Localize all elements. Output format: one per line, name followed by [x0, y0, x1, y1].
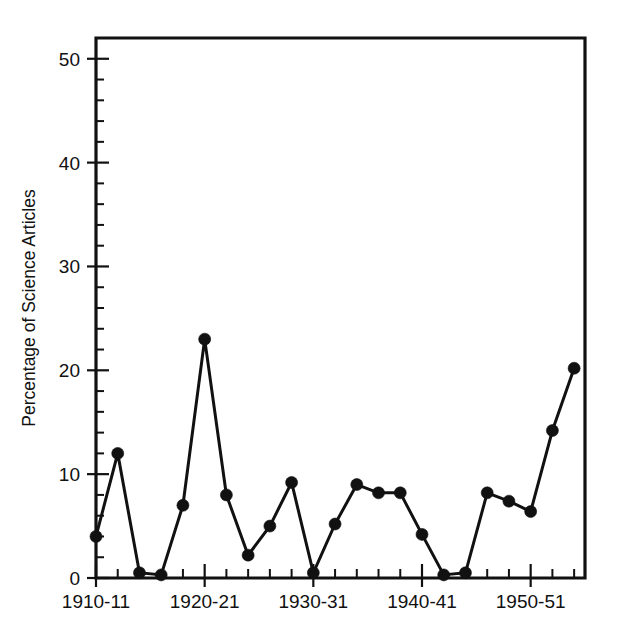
y-axis-title-text: Percentage of Science Articles — [19, 189, 39, 427]
data-point: 1920-21: 23% — [199, 333, 211, 345]
y-tick-label: 40 — [59, 153, 80, 174]
data-point: 1940-41: 4.2% — [416, 528, 428, 540]
data-point: 1948-49: 7.4% — [503, 495, 515, 507]
y-tick-label: 0 — [69, 568, 80, 589]
data-point: 1954-55: 20.2% — [568, 362, 580, 374]
y-axis-title: Percentage of Science Articles — [19, 189, 39, 427]
data-point: 1932-33: 5.2% — [329, 518, 341, 530]
y-tick-label: 30 — [59, 256, 80, 277]
data-point: 1926-27: 5% — [264, 520, 276, 532]
data-point: 1934-35: 9% — [351, 479, 363, 491]
data-point: 1916-17: 0.3% — [155, 569, 167, 581]
data-point: 1930-31: 0.5% — [307, 567, 319, 579]
data-point: 1928-29: 9.2% — [286, 476, 298, 488]
data-point: 1950-51: 6.4% — [525, 506, 537, 518]
y-tick-label: 20 — [59, 360, 80, 381]
data-point: 1922-23: 8% — [220, 489, 232, 501]
line-chart: 01020304050 1910-111920-211930-311940-41… — [0, 0, 622, 640]
x-tick-label: 1950-51 — [496, 591, 566, 612]
data-point: 1946-47: 8.2% — [481, 487, 493, 499]
x-tick-label: 1920-21 — [170, 591, 240, 612]
data-point: 1942-43: 0.3% — [438, 569, 450, 581]
data-point: 1938-39: 8.2% — [394, 487, 406, 499]
x-tick-label: 1930-31 — [278, 591, 348, 612]
x-axis-tick-labels: 1910-111920-211930-311940-411950-51 — [62, 591, 566, 612]
data-point: 1936-37: 8.2% — [373, 487, 385, 499]
x-tick-label: 1940-41 — [387, 591, 457, 612]
data-point: 1912-13: 12% — [112, 447, 124, 459]
chart-figure: 01020304050 1910-111920-211930-311940-41… — [0, 0, 622, 640]
data-point-markers: 1910-11: 4%1912-13: 12%1914-15: 0.5%1916… — [90, 333, 580, 581]
y-axis-tick-labels: 01020304050 — [59, 49, 80, 589]
x-axis-ticks — [96, 564, 574, 587]
y-tick-label: 10 — [59, 464, 80, 485]
data-point: 1918-19: 7% — [177, 499, 189, 511]
data-point: 1924-25: 2.2% — [242, 549, 254, 561]
data-point: 1944-45: 0.5% — [459, 567, 471, 579]
data-point: 1910-11: 4% — [90, 530, 102, 542]
data-series-percentage-of-science-articles: 1910-11: 4%1912-13: 12%1914-15: 0.5%1916… — [90, 333, 580, 581]
data-point: 1952-53: 14.2% — [546, 425, 558, 437]
data-point: 1914-15: 0.5% — [133, 567, 145, 579]
x-tick-label: 1910-11 — [62, 591, 130, 612]
y-tick-label: 50 — [59, 49, 80, 70]
